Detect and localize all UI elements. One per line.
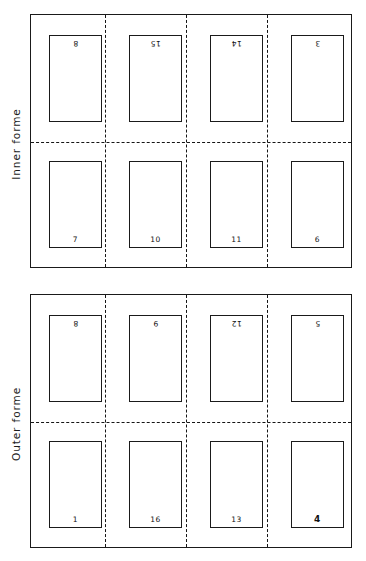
page-cell: 11 (210, 161, 263, 248)
page-number: 7 (50, 235, 101, 244)
page-number: 14 (211, 39, 262, 48)
page-number: 11 (211, 235, 262, 244)
page-cell: 1 (49, 441, 102, 528)
page-number: 8 (50, 39, 101, 48)
page-cell: 14 (210, 35, 263, 122)
page-number: 9 (130, 319, 181, 328)
forme-outer-label-text: Outer forme (10, 387, 22, 461)
page-number: 1 (50, 515, 101, 524)
page-number: 13 (211, 515, 262, 524)
page-number: 16 (130, 515, 181, 524)
page-number: 3 (292, 39, 343, 48)
page-cell: 5 (291, 315, 344, 402)
imposition-diagram: Inner forme 8 15 14 3 (0, 0, 366, 561)
page-cell: 12 (210, 315, 263, 402)
page-number: 5 (292, 319, 343, 328)
page-grid-outer: 8 9 12 5 1 16 13 (31, 295, 351, 547)
page-number: 6 (292, 235, 343, 244)
sheet-inner: 8 15 14 3 7 10 11 (30, 14, 352, 268)
page-number: 15 (130, 39, 181, 48)
forme-inner: Inner forme 8 15 14 3 (0, 8, 366, 280)
page-cell: 7 (49, 161, 102, 248)
page-cell: 16 (129, 441, 182, 528)
page-cell: 13 (210, 441, 263, 528)
page-cell: 3 (291, 35, 344, 122)
page-number: 4 (292, 514, 343, 524)
page-cell: 8 (49, 315, 102, 402)
page-cell: 8 (49, 35, 102, 122)
forme-inner-label-text: Inner forme (10, 108, 22, 179)
page-cell: 10 (129, 161, 182, 248)
sheet-outer: 8 9 12 5 1 16 13 (30, 294, 352, 548)
page-cell: 4 (291, 441, 344, 528)
page-number: 12 (211, 319, 262, 328)
page-number: 10 (130, 235, 181, 244)
page-cell: 6 (291, 161, 344, 248)
page-cell: 9 (129, 315, 182, 402)
page-cell: 15 (129, 35, 182, 122)
forme-outer-label: Outer forme (0, 288, 32, 560)
page-number: 8 (50, 319, 101, 328)
page-grid-inner: 8 15 14 3 7 10 11 (31, 15, 351, 267)
forme-outer: Outer forme 8 9 12 5 (0, 288, 366, 560)
forme-inner-label: Inner forme (0, 8, 32, 280)
